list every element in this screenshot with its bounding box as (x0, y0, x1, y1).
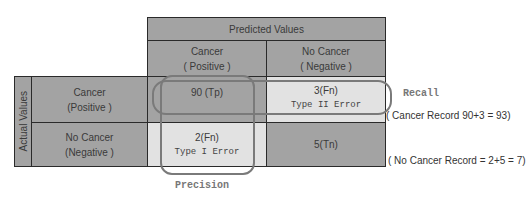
row-header-no-cancer: No Cancer (Negative ) (31, 122, 148, 167)
no-cancer-record-note: ( No Cancer Record = 2+5 = 7) (388, 155, 526, 166)
actual-values-label: Actual Values (16, 91, 31, 151)
column-header-line2: ( Positive ) (183, 59, 230, 74)
recall-label: Recall (403, 88, 439, 99)
row-header-line1: No Cancer (66, 130, 114, 145)
cell-true-negative: 5(Tn) (266, 122, 386, 167)
column-header-cancer: Cancer ( Positive ) (147, 40, 267, 77)
column-header-line1: No Cancer (302, 44, 350, 59)
row-header-line2: (Negative ) (65, 145, 114, 160)
column-header-line1: Cancer (191, 44, 223, 59)
precision-label: Precision (175, 180, 229, 191)
cancer-record-note: ( Cancer Record 90+3 = 93) (386, 110, 511, 121)
row-header-cancer: Cancer (Positive ) (31, 76, 148, 123)
predicted-values-header: Predicted Values (147, 17, 386, 41)
row-header-line1: Cancer (73, 85, 105, 100)
column-header-line2: ( Negative ) (300, 59, 352, 74)
row-header-line2: (Positive ) (67, 100, 111, 115)
actual-values-header: Actual Values (14, 76, 32, 167)
predicted-values-label: Predicted Values (229, 22, 304, 37)
column-header-no-cancer: No Cancer ( Negative ) (266, 40, 386, 77)
cell-value: 5(Tn) (314, 137, 338, 152)
recall-highlight-oval (152, 80, 392, 115)
